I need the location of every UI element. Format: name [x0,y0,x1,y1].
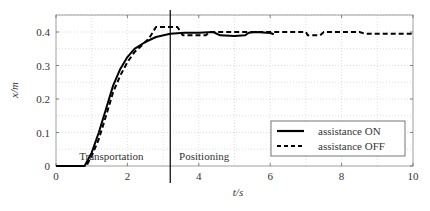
x-tick-label: 8 [339,170,345,182]
legend-label-off: assistance OFF [318,140,385,152]
y-axis-label: x/m [8,82,20,99]
y-tick-label: 0 [45,160,51,172]
annotation-positioning: Positioning [179,150,230,162]
y-tick-label: 0.4 [36,26,50,38]
line-chart: 024681000.10.20.30.4 Transportation Posi… [0,0,430,211]
y-tick-label: 0.3 [36,60,50,72]
legend-label-on: assistance ON [318,125,381,137]
x-tick-label: 4 [196,170,202,182]
x-tick-label: 10 [408,170,420,182]
x-tick-label: 0 [53,170,59,182]
legend: assistance ON assistance OFF [271,121,405,156]
y-tick-label: 0.2 [36,93,50,105]
annotation-transportation: Transportation [79,150,144,162]
y-tick-label: 0.1 [36,127,50,139]
x-tick-label: 6 [267,170,273,182]
x-axis-label: t/s [233,186,243,198]
x-tick-label: 2 [125,170,131,182]
